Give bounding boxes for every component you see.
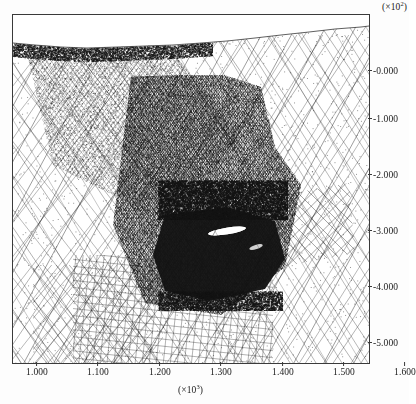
x-axis-tick: 1.100	[87, 362, 109, 377]
y-axis-tick: -3.000	[368, 225, 398, 236]
y-tick-label: -1.000	[373, 114, 398, 124]
x-tick-label: 1.600	[394, 367, 416, 377]
y-tick-mark	[368, 70, 372, 71]
x-axis: 1.0001.1001.2001.3001.4001.5001.600	[12, 362, 368, 384]
y-tick-label: -4.000	[373, 282, 398, 292]
x-axis-tick: 1.600	[394, 362, 416, 377]
x-tick-label: 1.300	[210, 367, 232, 377]
x-axis-tick: 1.500	[333, 362, 355, 377]
x-tick-label: 1.100	[87, 367, 109, 377]
x-tick-mark	[405, 362, 406, 366]
x-tick-mark	[37, 362, 38, 366]
plot-area	[12, 14, 370, 364]
x-tick-mark	[283, 362, 284, 366]
y-axis-exponent-label: (×102)	[382, 2, 407, 12]
y-axis-tick: -5.000	[368, 337, 398, 348]
x-tick-label: 1.200	[149, 367, 171, 377]
x-axis-exponent-label: (×103)	[178, 385, 203, 395]
x-tick-mark	[98, 362, 99, 366]
x-tick-label: 1.000	[26, 367, 48, 377]
y-axis-tick: -4.000	[368, 281, 398, 292]
x-tick-mark	[344, 362, 345, 366]
mesh-plot-canvas	[13, 15, 369, 363]
x-axis-tick: 1.000	[26, 362, 48, 377]
y-tick-label: -5.000	[373, 338, 398, 348]
x-axis-tick: 1.200	[149, 362, 171, 377]
y-axis-tick: -2.000	[368, 169, 398, 180]
y-tick-mark	[368, 174, 372, 175]
y-axis: -0.000-1.000-2.000-3.000-4.000-5.000	[368, 14, 409, 362]
x-axis-tick: 1.300	[210, 362, 232, 377]
y-tick-mark	[368, 342, 372, 343]
y-tick-label: -2.000	[373, 170, 398, 180]
x-tick-label: 1.400	[272, 367, 294, 377]
y-axis-tick: -0.000	[368, 65, 398, 76]
x-tick-label: 1.500	[333, 367, 355, 377]
y-tick-label: -0.000	[373, 66, 398, 76]
y-axis-tick: -1.000	[368, 113, 398, 124]
y-tick-mark	[368, 118, 372, 119]
x-axis-tick: 1.400	[272, 362, 294, 377]
y-tick-mark	[368, 230, 372, 231]
x-tick-mark	[160, 362, 161, 366]
y-tick-label: -3.000	[373, 226, 398, 236]
y-tick-mark	[368, 286, 372, 287]
x-tick-mark	[221, 362, 222, 366]
